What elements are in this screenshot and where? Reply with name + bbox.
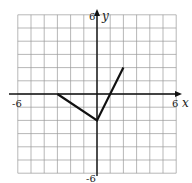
coordinate-plane: -6 6 x 6 y -6 [0, 0, 192, 183]
y-min-label: -6 [86, 173, 96, 183]
axes [9, 9, 182, 176]
x-axis-label: x [182, 96, 189, 110]
x-max-label: 6 [172, 98, 178, 109]
y-max-label: 6 [89, 11, 95, 22]
x-min-label: -6 [12, 98, 22, 109]
x-axis-arrow-icon [175, 91, 182, 97]
y-axis-label: y [101, 9, 109, 23]
